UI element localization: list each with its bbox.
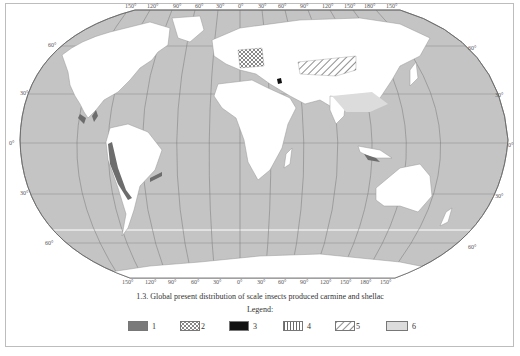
legend-number: 2 (201, 322, 205, 331)
svg-text:60°: 60° (468, 45, 477, 51)
svg-text:30°: 30° (495, 92, 504, 98)
svg-text:150°: 150° (125, 3, 137, 9)
svg-text:150°: 150° (340, 279, 352, 285)
swatch-cross-hatch (180, 321, 200, 331)
svg-text:90°: 90° (300, 3, 309, 9)
svg-text:150°: 150° (344, 3, 356, 9)
map-caption: 1.3. Global present distribution of scal… (0, 292, 520, 301)
legend-item-4: 4 (283, 321, 311, 331)
svg-text:180°: 180° (364, 3, 376, 9)
svg-text:120°: 120° (322, 3, 334, 9)
longitude-labels-top: 150° 120° 90° 60° 30° 0° 30° 60° 90° 120… (125, 3, 398, 9)
svg-text:0°: 0° (508, 142, 514, 148)
svg-text:0°: 0° (238, 3, 244, 9)
legend-item-3: 3 (229, 321, 257, 331)
legend-number: 1 (152, 322, 156, 331)
legend-number: 4 (307, 322, 311, 331)
svg-text:120°: 120° (147, 3, 159, 9)
svg-text:30°: 30° (495, 193, 504, 199)
svg-text:30°: 30° (20, 190, 29, 196)
svg-text:150°: 150° (122, 279, 134, 285)
swatch-vertical-lines (283, 321, 303, 331)
legend-number: 6 (412, 322, 416, 331)
legend-item-5: 5 (335, 321, 360, 331)
svg-text:30°: 30° (258, 3, 267, 9)
legend-number: 3 (253, 322, 257, 331)
svg-text:60°: 60° (191, 279, 200, 285)
svg-text:120°: 120° (145, 279, 157, 285)
svg-text:30°: 30° (213, 279, 222, 285)
swatch-solid-dark-gray (128, 321, 148, 331)
area-type-2-eastern-europe (238, 48, 264, 68)
svg-text:60°: 60° (278, 3, 287, 9)
svg-text:60°: 60° (468, 244, 477, 250)
swatch-solid-black (229, 321, 249, 331)
swatch-diagonal-lines (335, 321, 355, 331)
legend: 1 2 3 4 5 6 (128, 319, 416, 333)
legend-number: 5 (356, 322, 360, 331)
legend-title: Legend: (0, 305, 520, 314)
svg-text:30°: 30° (257, 279, 266, 285)
legend-item-1: 1 (128, 321, 156, 331)
svg-text:60°: 60° (195, 3, 204, 9)
svg-text:180°: 180° (360, 279, 372, 285)
world-map-svg: 150° 120° 90° 60° 30° 0° 30° 60° 90° 120… (0, 0, 520, 286)
svg-text:30°: 30° (20, 90, 29, 96)
longitude-labels-bottom: 150° 120° 90° 60° 30° 0° 30° 60° 90° 120… (122, 279, 392, 285)
svg-text:0°: 0° (237, 279, 243, 285)
svg-text:60°: 60° (45, 240, 54, 246)
svg-text:0°: 0° (9, 140, 15, 146)
svg-text:120°: 120° (320, 279, 332, 285)
legend-item-2: 2 (180, 321, 205, 331)
svg-text:90°: 90° (300, 279, 309, 285)
svg-text:150°: 150° (386, 3, 398, 9)
legend-item-6: 6 (386, 321, 416, 331)
svg-text:60°: 60° (48, 42, 57, 48)
svg-text:150°: 150° (380, 279, 392, 285)
svg-text:30°: 30° (216, 3, 225, 9)
svg-text:90°: 90° (168, 279, 177, 285)
world-map: 150° 120° 90° 60° 30° 0° 30° 60° 90° 120… (0, 0, 520, 286)
svg-text:60°: 60° (278, 279, 287, 285)
swatch-solid-light-gray (386, 321, 408, 331)
svg-text:90°: 90° (173, 3, 182, 9)
